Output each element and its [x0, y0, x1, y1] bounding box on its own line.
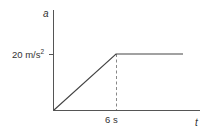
- y-axis-label: a: [43, 8, 49, 19]
- acceleration-curve: [54, 54, 183, 110]
- x-axis-label: t: [195, 117, 199, 128]
- y-tick-value: 20 m/s: [12, 49, 41, 60]
- acceleration-time-graph: a t 6 s 20 m/s2: [0, 0, 210, 133]
- x-tick-label-6s: 6 s: [105, 114, 118, 125]
- y-tick-exponent: 2: [41, 48, 45, 55]
- y-tick-label-20: 20 m/s2: [12, 48, 45, 60]
